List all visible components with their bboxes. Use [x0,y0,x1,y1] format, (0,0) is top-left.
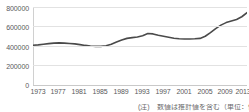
y-axis-tick-label: 200000 [0,63,29,70]
x-axis-tick-labels: 1973 1977 1981 1985 1989 1993 1997 2001 … [33,88,247,98]
x-axis-tick-label: 2009 [217,88,232,96]
x-axis-tick-label: 1993 [134,88,149,96]
chart-caption-text: (注) 数値は推計値を含む（単位：件） [138,104,249,111]
x-axis-tick-label: 1973 [30,88,45,96]
gridline [33,65,247,66]
x-axis-tick-label: 2001 [176,88,191,96]
y-axis-tick-labels: 800000 600000 400000 200000 0 [0,0,30,112]
x-axis-line [33,85,247,86]
x-axis-tick-label: 2013 [235,88,249,96]
x-axis-tick-label: 1981 [71,88,86,96]
y-axis-tick-label: 400000 [0,44,29,51]
y-axis-tick-label: 800000 [0,5,29,12]
x-axis-tick-label: 1977 [50,88,65,96]
x-axis-tick-label: 1985 [92,88,107,96]
x-axis-tick-label: 2005 [197,88,212,96]
gridline [33,26,247,27]
chart-caption: (注) 数値は推計値を含む（単位：件） [0,104,249,112]
plot-area [33,7,247,85]
gridline [33,7,247,8]
x-axis-tick-label: 1997 [155,88,170,96]
x-axis-tick-label: 1989 [113,88,128,96]
y-axis-tick-label: 600000 [0,24,29,31]
gridline [33,46,247,47]
y-axis-tick-label: 0 [0,82,29,89]
line-chart: 800000 600000 400000 200000 0 1973 1977 … [0,0,249,112]
